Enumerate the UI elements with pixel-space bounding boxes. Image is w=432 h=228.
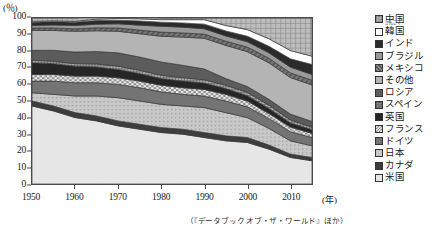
legend-swatch-icon [375,125,383,133]
x-axis-tick-mark [248,185,249,189]
legend-item-7[interactable]: スペイン [375,98,432,110]
area-series-group [32,18,312,184]
legend-swatch-icon [375,64,383,72]
x-axis-unit-label: (年) [322,193,337,206]
legend-item-label: インド [385,37,414,49]
legend-item-1[interactable]: 韓国かんこく [375,25,432,37]
legend-swatch-icon [375,149,383,157]
legend-swatch-icon [375,174,383,182]
x-axis-tick-mark [118,185,119,189]
legend-swatch-icon [375,101,383,109]
y-axis-tick-label: 40 [17,113,26,123]
y-axis-tick-label: 20 [17,147,26,157]
legend-item-label: スペイン [385,98,422,110]
legend-swatch-icon [375,15,383,23]
x-axis-tick-label: 1960 [65,193,83,203]
legend-item-ruby: かんこく [385,21,401,25]
legend-item-13[interactable]: 米国 [375,171,432,183]
legend-item-label: ドイツ [385,135,414,147]
legend-item-0[interactable]: 中国 [375,13,432,25]
x-axis-tick-mark [291,185,292,189]
legend-item-label: ブラジル [385,50,423,62]
x-axis-tick-label: 2000 [239,193,257,203]
y-axis-tick-label: 90 [17,29,26,39]
x-axis-tick-mark [161,185,162,189]
y-axis-tick-label: 10 [17,163,26,173]
legend-item-label: 英国 [385,111,404,123]
legend-swatch-icon [375,89,383,97]
legend-swatch-icon [375,137,383,145]
x-axis-tick-label: 1970 [109,193,127,203]
x-axis-tick-label: 1990 [195,193,213,203]
x-axis-tick-mark [74,185,75,189]
stacked-area-svg [32,18,312,184]
legend-item-10[interactable]: ドイツ [375,135,432,147]
x-axis-tick-mark [205,185,206,189]
legend-swatch-icon [375,76,383,84]
legend-swatch-icon [375,40,383,48]
legend-item-label: 米国 [385,171,404,183]
source-note: （『データブック オブ・ザ・ワールド』ほか） [186,215,348,224]
legend-item-label: メキシコ [385,62,423,74]
legend-item-5[interactable]: その他 [375,74,432,86]
legend-swatch-icon [375,113,383,121]
legend-item-label: フランス [385,123,423,135]
chart-legend: 中国韓国かんこくインドブラジルメキシコその他ロシアスペイン英国フランスドイツ日本… [375,13,432,184]
legend-item-2[interactable]: インド [375,37,432,49]
legend-item-6[interactable]: ロシア [375,86,432,98]
y-axis: 0102030405060708090100 [0,17,29,185]
x-axis-tick-label: 1950 [22,193,40,203]
y-axis-tick-label: 0 [21,180,26,190]
legend-swatch-icon [375,28,383,36]
legend-item-label: ロシア [385,86,414,98]
legend-item-12[interactable]: カナダ [375,159,432,171]
y-axis-tick-label: 70 [17,63,26,73]
legend-swatch-icon [375,162,383,170]
x-axis-tick-label: 1980 [152,193,170,203]
legend-item-11[interactable]: 日本 [375,147,432,159]
legend-item-4[interactable]: メキシコ [375,62,432,74]
chart-plot-area [31,17,313,185]
legend-item-8[interactable]: 英国 [375,111,432,123]
legend-item-label: その他 [385,74,414,86]
y-axis-tick-label: 60 [17,79,26,89]
y-axis-tick-label: 50 [17,96,26,106]
legend-item-9[interactable]: フランス [375,123,432,135]
x-axis-tick-label: 2010 [282,193,300,203]
y-axis-tick-label: 100 [12,12,26,22]
legend-item-label: 韓国かんこく [385,25,404,37]
y-axis-tick-label: 80 [17,46,26,56]
legend-swatch-icon [375,52,383,60]
legend-item-label: カナダ [385,159,414,171]
y-axis-tick-label: 30 [17,130,26,140]
legend-item-3[interactable]: ブラジル [375,50,432,62]
legend-item-label: 日本 [385,147,404,159]
x-axis: 1950196019701980199020002010 [31,185,313,209]
